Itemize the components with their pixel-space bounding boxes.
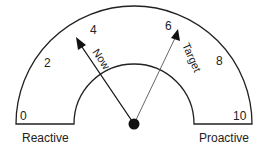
pivot-dot	[129, 119, 140, 130]
tick-label-6: 6	[165, 19, 172, 33]
tick-label-4: 4	[90, 23, 97, 37]
tick-label-8: 8	[216, 54, 223, 68]
reactive-label: Reactive	[22, 131, 69, 145]
tick-label-2: 2	[44, 56, 51, 70]
gauge-diagram: 0 2 4 6 8 10 Reactive Proactive Now Targ…	[0, 0, 268, 155]
tick-label-0: 0	[20, 109, 27, 123]
proactive-label: Proactive	[199, 131, 249, 145]
tick-label-10: 10	[233, 109, 247, 123]
